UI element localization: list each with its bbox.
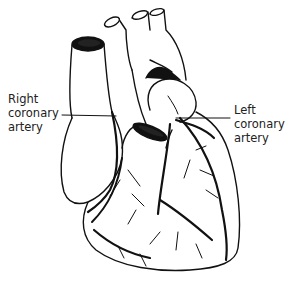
right-coronary-leader — [62, 115, 116, 116]
left-coronary-label-line3: artery — [234, 131, 285, 145]
right-coronary-label-line2: coronary — [8, 106, 59, 120]
left-coronary-artery-label: Left coronary artery — [234, 103, 285, 145]
pulmonary-trunk — [122, 120, 172, 148]
right-coronary-artery-label: Right coronary artery — [8, 92, 59, 134]
heart-diagram: Right coronary artery Left coronary arte… — [0, 0, 294, 284]
right-coronary-label-line1: Right — [8, 92, 59, 106]
left-coronary-label-line2: coronary — [234, 117, 285, 131]
superior-vena-cava — [70, 37, 112, 118]
left-auricle — [148, 79, 196, 122]
right-coronary-label-line3: artery — [8, 120, 59, 134]
left-coronary-label-line1: Left — [234, 103, 285, 117]
